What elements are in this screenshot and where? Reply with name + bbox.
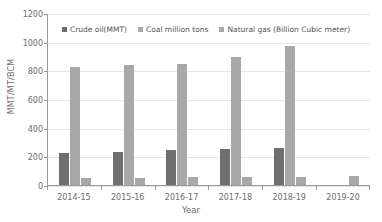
y-tick-mark (44, 157, 47, 158)
bar (188, 177, 198, 185)
legend-label: Crude oil(MMT) (70, 25, 127, 34)
bar (166, 150, 176, 185)
y-tick-mark (44, 43, 47, 44)
x-axis-title: Year (0, 205, 382, 215)
y-tick-label: 0 (38, 182, 43, 191)
bar-groups (48, 14, 370, 185)
bar (177, 64, 187, 185)
legend-swatch-icon (219, 27, 224, 32)
bar (231, 57, 241, 185)
bar-group (316, 14, 370, 185)
bar (220, 149, 230, 185)
bar-group (48, 14, 102, 185)
bar-group (263, 14, 317, 185)
x-tick-label: 2016-17 (155, 186, 209, 202)
x-tick-label: 2017-18 (208, 186, 262, 202)
bar (70, 67, 80, 185)
bar (81, 178, 91, 185)
x-tick-label: 2019-20 (316, 186, 370, 202)
y-tick-label: 600 (28, 96, 43, 105)
y-tick-label: 400 (28, 124, 43, 133)
y-tick-label: 1000 (23, 38, 43, 47)
legend-swatch-icon (138, 27, 143, 32)
y-tick-label: 1200 (23, 10, 43, 19)
bar (113, 152, 123, 185)
legend-item: Natural gas (Billion Cubic meter) (219, 25, 350, 34)
x-tick-label: 2015-16 (101, 186, 155, 202)
y-tick-mark (44, 100, 47, 101)
bar (59, 153, 69, 185)
y-tick-label: 200 (28, 153, 43, 162)
bar (285, 46, 295, 185)
bar-group (209, 14, 263, 185)
chart-legend: Crude oil(MMT)Coal million tonsNatural g… (62, 25, 350, 34)
bar (274, 148, 284, 185)
bar (135, 178, 145, 185)
legend-item: Crude oil(MMT) (62, 25, 127, 34)
bar-chart: MMT/MT/BCM 020040060080010001200 2014-15… (0, 0, 382, 222)
y-tick-mark (44, 14, 47, 15)
x-tick-label: 2014-15 (47, 186, 101, 202)
legend-label: Coal million tons (146, 25, 208, 34)
legend-swatch-icon (62, 27, 67, 32)
bar (349, 176, 359, 185)
plot-area: 020040060080010001200 (47, 14, 370, 186)
bar (124, 65, 134, 185)
y-tick-mark (44, 129, 47, 130)
bar-group (155, 14, 209, 185)
bar-group (102, 14, 156, 185)
legend-item: Coal million tons (138, 25, 208, 34)
legend-label: Natural gas (Billion Cubic meter) (227, 25, 350, 34)
y-tick-mark (44, 71, 47, 72)
bar (242, 177, 252, 185)
y-axis-title: MMT/MT/BCM (7, 47, 16, 127)
x-tick-label: 2018-19 (262, 186, 316, 202)
bar (296, 177, 306, 185)
x-axis-tick-labels: 2014-152015-162016-172017-182018-192019-… (47, 186, 370, 202)
y-tick-label: 800 (28, 67, 43, 76)
